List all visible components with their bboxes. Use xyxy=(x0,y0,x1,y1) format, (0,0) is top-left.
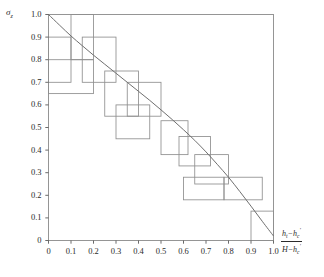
y-tick-label: 0.5 xyxy=(16,123,42,132)
data-box xyxy=(116,105,150,139)
data-box xyxy=(195,155,229,184)
x-axis-label-numerator: ht−hc′ xyxy=(281,227,302,242)
data-box xyxy=(161,121,188,155)
x-tick-label: 0.9 xyxy=(239,247,263,256)
x-tick-label: 1.0 xyxy=(262,247,286,256)
y-tick-label: 0.6 xyxy=(16,100,42,109)
data-box xyxy=(127,82,161,116)
x-tick-label: 0.3 xyxy=(104,247,128,256)
y-tick-label: 0.4 xyxy=(16,146,42,155)
x-tick-label: 0.1 xyxy=(59,247,83,256)
x-tick-label: 0.5 xyxy=(149,247,173,256)
y-tick-label: 0.9 xyxy=(16,33,42,42)
staircase-boxes xyxy=(49,15,274,241)
x-tick-label: 0 xyxy=(37,247,61,256)
axis-ticks xyxy=(45,15,273,244)
plot-svg xyxy=(0,0,324,277)
y-tick-label: 0.3 xyxy=(16,168,42,177)
y-tick-label: 0.1 xyxy=(16,213,42,222)
x-tick-label: 0.2 xyxy=(82,247,106,256)
x-tick-label: 0.6 xyxy=(172,247,196,256)
figure-container: σz ht−hc′ H−hc′ 00.10.20.30.40.50.60.70.… xyxy=(0,0,324,277)
y-tick-label: 0 xyxy=(16,236,42,245)
y-tick-label: 0.7 xyxy=(16,78,42,87)
x-tick-label: 0.7 xyxy=(194,247,218,256)
y-tick-label: 0.8 xyxy=(16,55,42,64)
x-tick-label: 0.8 xyxy=(217,247,241,256)
y-tick-label: 1.0 xyxy=(16,10,42,19)
y-tick-label: 0.2 xyxy=(16,191,42,200)
data-box xyxy=(184,177,225,200)
x-tick-label: 0.4 xyxy=(127,247,151,256)
data-box xyxy=(251,211,274,240)
